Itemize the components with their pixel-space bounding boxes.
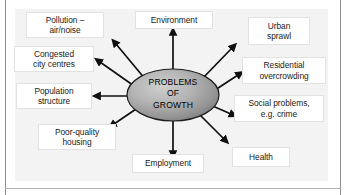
- node-environment: Environment: [135, 11, 213, 29]
- node-employment: Employment: [132, 154, 204, 173]
- node-social-problems: Social problems, e.g. crime: [234, 95, 324, 122]
- node-health: Health: [232, 147, 290, 167]
- diagram-figure: PROBLEMS OF GROWTH Pollution – air/noise…: [0, 0, 346, 195]
- arrow-to-health: [198, 113, 224, 139]
- arrow-to-pollution: [116, 44, 146, 80]
- node-congested-city-centres: Congested city centres: [14, 46, 94, 72]
- problems-of-growth-ellipse: [127, 69, 219, 121]
- node-residential-overcrowding: Residential overcrowding: [242, 57, 326, 84]
- node-population-structure: Population structure: [16, 83, 92, 109]
- arrow-to-urban: [201, 48, 232, 80]
- node-urban-sprawl: Urban sprawl: [248, 17, 310, 45]
- node-poor-quality-housing: Poor-quality housing: [38, 124, 116, 150]
- node-pollution: Pollution – air/noise: [26, 12, 104, 38]
